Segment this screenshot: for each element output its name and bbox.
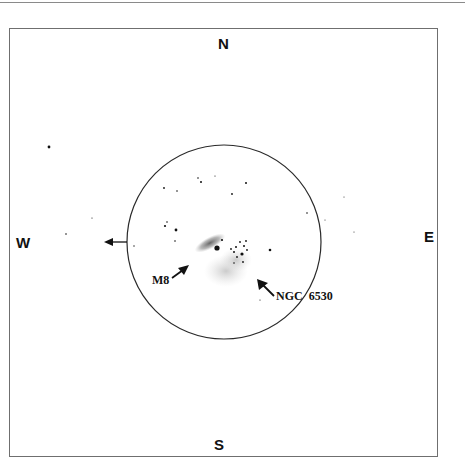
- field-of-view-circle: [127, 145, 321, 339]
- label-m8: M8: [152, 274, 169, 286]
- label-ngc6530: NGC 6530: [276, 290, 333, 302]
- star-field: [0, 0, 465, 471]
- stars: [48, 146, 355, 301]
- compass-north: N: [218, 36, 229, 51]
- drift-arrow: [104, 238, 127, 246]
- ngc6530-pointer-arrow: [257, 279, 274, 296]
- m8-pointer-arrow: [172, 265, 189, 278]
- m8-nebula: [192, 230, 252, 287]
- compass-east: E: [424, 229, 434, 244]
- compass-west: W: [16, 235, 30, 250]
- compass-south: S: [214, 437, 224, 452]
